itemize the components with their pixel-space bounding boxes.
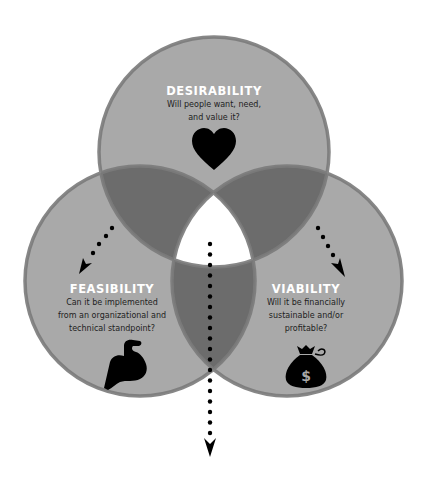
feasibility-label: FEASIBILITY Can it be implemented from a…: [58, 282, 166, 335]
feasibility-question: Can it be implemented from an organizati…: [58, 296, 166, 335]
desirability-question: Will people want, need, and value it?: [166, 98, 262, 124]
feasibility-title: FEASIBILITY: [58, 282, 166, 296]
viability-question: Will it be financially sustainable and/o…: [267, 296, 345, 335]
desirability-label: DESIRABILITY Will people want, need, and…: [166, 84, 262, 124]
venn-diagram: $: [0, 0, 425, 480]
desirability-title: DESIRABILITY: [166, 84, 262, 98]
viability-title: VIABILITY: [267, 282, 345, 296]
dollar-symbol: $: [301, 368, 311, 384]
viability-label: VIABILITY Will it be financially sustain…: [267, 282, 345, 335]
